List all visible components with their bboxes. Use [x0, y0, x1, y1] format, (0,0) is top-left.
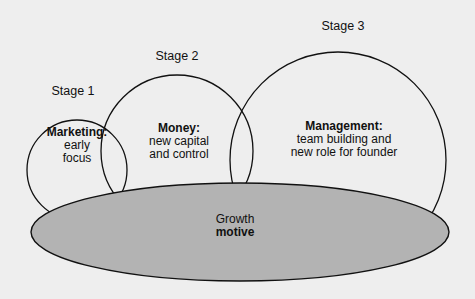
stage-3-content: Management: team building and new role f…	[291, 120, 398, 159]
stage-2-content: Money: new capital and control	[149, 122, 209, 161]
growth-motive-line-2: motive	[216, 225, 255, 239]
stage-2-line-2: and control	[149, 148, 209, 161]
stage-2-title: Money:	[158, 121, 200, 135]
stage-3-label: Stage 3	[321, 20, 364, 33]
stage-1-content: Marketing: early focus	[47, 126, 108, 165]
stage-2-label: Stage 2	[155, 50, 198, 63]
stage-3-title: Management:	[305, 119, 382, 133]
stage-1-label: Stage 1	[51, 85, 94, 98]
diagram-canvas: Stage 1 Stage 2 Stage 3 Marketing: early…	[0, 0, 475, 299]
stage-1-line-2: focus	[47, 152, 108, 165]
stage-3-line-2: new role for founder	[291, 146, 398, 159]
stage-1-title: Marketing:	[47, 125, 108, 139]
growth-motive-label: Growth motive	[216, 213, 255, 239]
